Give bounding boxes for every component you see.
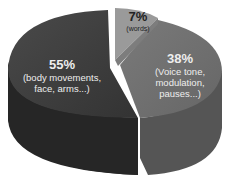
label-7: 7% (words) bbox=[118, 10, 158, 33]
label-55: 55% (body movements, face, arms...) bbox=[14, 58, 110, 95]
label-7-desc: (words) bbox=[118, 25, 158, 33]
label-38: 38% (Voice tone, modulation, pauses...) bbox=[140, 52, 220, 100]
label-55-desc-2: face, arms...) bbox=[14, 84, 110, 95]
label-38-desc-3: pauses...) bbox=[140, 89, 220, 100]
label-55-pct: 55% bbox=[14, 58, 110, 73]
label-7-pct: 7% bbox=[118, 10, 158, 25]
label-38-pct: 38% bbox=[140, 52, 220, 67]
